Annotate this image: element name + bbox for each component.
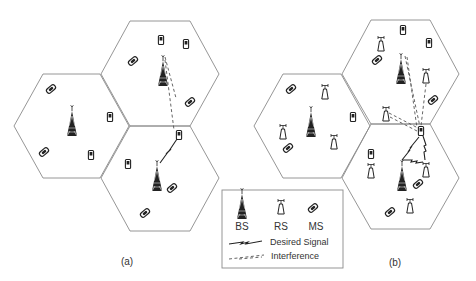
desired-signal-line	[160, 139, 177, 163]
legend-rs-label: RS	[274, 221, 288, 232]
legend-interference-label: Interference	[271, 251, 319, 261]
interference-line	[421, 84, 426, 126]
mobile-station-icon	[183, 40, 188, 49]
relay-station-icon	[378, 36, 384, 51]
mobile-station-icon	[368, 150, 373, 159]
mobile-station-icon	[38, 147, 49, 157]
mobile-station-icon	[371, 55, 382, 65]
relay-station-icon	[280, 124, 286, 139]
base-station-icon	[396, 53, 406, 84]
base-station-icon	[158, 55, 168, 86]
base-station-icon	[152, 160, 162, 191]
interference-line	[165, 60, 174, 130]
interference-line	[405, 56, 420, 127]
mobile-station-icon	[282, 143, 293, 153]
mobile-station-icon	[400, 26, 405, 35]
relay-station-icon	[383, 106, 389, 121]
panel-a-label: (a)	[121, 256, 133, 267]
desired-signal-line	[423, 136, 426, 160]
mobile-station-icon	[88, 151, 93, 160]
mobile-station-icon	[45, 84, 56, 94]
interference-line	[407, 57, 417, 128]
mobile-station-icon	[158, 36, 163, 45]
legend-bs-label: BS	[235, 221, 249, 232]
cellular-network-diagram: (a)	[0, 0, 476, 281]
legend-desired-signal-label: Desired Signal	[270, 237, 329, 247]
relay-station-icon	[423, 162, 429, 177]
cell-hex-bottom	[101, 126, 219, 231]
relay-station-icon	[331, 134, 337, 149]
base-station-icon	[306, 106, 316, 137]
relay-station-icon	[368, 163, 374, 178]
mobile-station-icon	[139, 208, 150, 218]
mobile-station-icon	[176, 131, 181, 140]
base-station-icon	[397, 160, 407, 191]
relay-station-icon	[322, 84, 328, 99]
legend-ms-label: MS	[309, 221, 324, 232]
mobile-station-icon	[384, 207, 395, 217]
relay-station-icon	[423, 68, 429, 83]
base-station-icon	[67, 105, 77, 136]
mobile-station-icon	[166, 183, 177, 193]
panel-a: (a)	[14, 21, 219, 267]
mobile-station-icon	[125, 160, 130, 169]
mobile-station-icon	[427, 95, 438, 105]
mobile-station-icon	[426, 39, 431, 48]
mobile-station-icon	[350, 113, 355, 122]
mobile-station-icon	[107, 113, 112, 122]
mobile-station-icon	[418, 127, 423, 136]
mobile-station-icon	[184, 97, 195, 107]
desired-signal-line	[402, 137, 419, 160]
relay-station-icon	[407, 198, 413, 213]
mobile-station-icon	[412, 179, 423, 189]
interference-line	[389, 113, 418, 128]
panel-b-label: (b)	[389, 257, 401, 268]
interference-line	[165, 57, 176, 98]
mobile-station-icon	[127, 56, 138, 66]
desired-signal-line	[402, 160, 423, 163]
legend: BS RS MS Desired Signal Interference	[222, 188, 343, 268]
mobile-station-icon	[285, 84, 296, 94]
